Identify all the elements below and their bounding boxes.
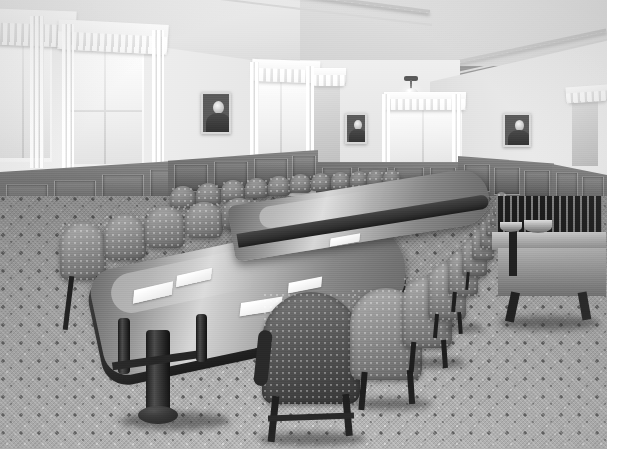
chair-head-2 xyxy=(104,214,146,260)
photo-caption xyxy=(0,452,619,476)
window-1-sheer-curtain xyxy=(0,40,52,162)
window-3-sheer-curtain xyxy=(256,74,308,164)
settee-shadow xyxy=(498,316,600,330)
window-2-sheer-curtain xyxy=(68,46,144,164)
side-table-top xyxy=(500,222,522,232)
portrait-3 xyxy=(503,113,531,147)
window-5-drape-left xyxy=(382,94,390,172)
table-leg-rear xyxy=(196,314,207,362)
side-table-pedestal xyxy=(509,228,517,276)
chair-near-1 xyxy=(262,292,360,404)
window-2-drape-right xyxy=(152,30,164,172)
chair-row-shadow-1 xyxy=(352,398,432,410)
chair-row-shadow-2 xyxy=(408,358,466,368)
boardroom-photograph xyxy=(0,0,607,449)
chair-head-3 xyxy=(145,206,185,248)
bowl xyxy=(524,220,552,233)
table-leg-front xyxy=(146,330,170,414)
window-2-drape-left xyxy=(62,24,74,170)
window-3-drape-left xyxy=(250,62,259,168)
portrait-1 xyxy=(201,92,231,134)
chair-far-4 xyxy=(245,178,268,198)
window-6 xyxy=(572,100,598,166)
chair-head-1 xyxy=(60,222,106,280)
window-4-valance xyxy=(312,68,346,86)
window-4 xyxy=(312,78,340,162)
chair-far-5 xyxy=(268,176,290,196)
chair-near-1-shadow xyxy=(258,432,366,446)
window-1-drape-right xyxy=(30,16,44,168)
chair-row-shadow-3 xyxy=(444,324,484,332)
chair-far-7 xyxy=(311,173,331,191)
window-5-sheer-curtain xyxy=(386,102,462,170)
table-shadow xyxy=(120,412,230,430)
chair-head-4 xyxy=(185,202,223,238)
portrait-2 xyxy=(345,113,367,144)
chair-far-6 xyxy=(290,174,311,193)
window-6-valance xyxy=(565,85,607,104)
page-root xyxy=(0,0,619,476)
